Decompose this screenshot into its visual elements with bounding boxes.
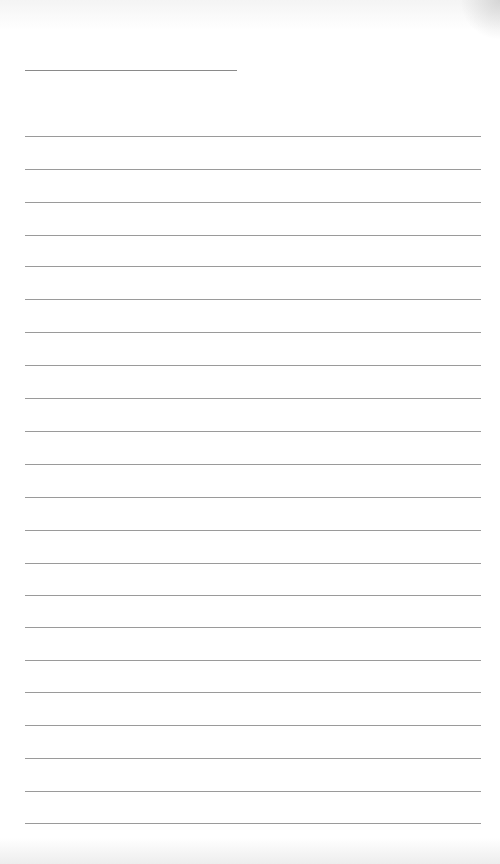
ruled-line (25, 431, 481, 432)
ruled-line (25, 464, 481, 465)
ruled-line (25, 235, 481, 236)
ruled-line (25, 497, 481, 498)
ruled-line (25, 136, 481, 137)
lined-paper-page (0, 0, 500, 864)
ruled-line (25, 595, 481, 596)
ruled-line (25, 725, 481, 726)
ruled-line (25, 627, 481, 628)
ruled-line (25, 398, 481, 399)
ruled-line (25, 660, 481, 661)
ruled-line (25, 692, 481, 693)
ruled-line (25, 169, 481, 170)
ruled-line (25, 758, 481, 759)
ruled-line (25, 365, 481, 366)
ruled-line (25, 530, 481, 531)
ruled-line (25, 266, 481, 267)
ruled-line (25, 332, 481, 333)
ruled-line (25, 791, 481, 792)
ruled-line (25, 202, 481, 203)
ruled-line (25, 823, 481, 824)
ruled-line (25, 299, 481, 300)
ruled-lines (0, 0, 500, 864)
ruled-line (25, 563, 481, 564)
